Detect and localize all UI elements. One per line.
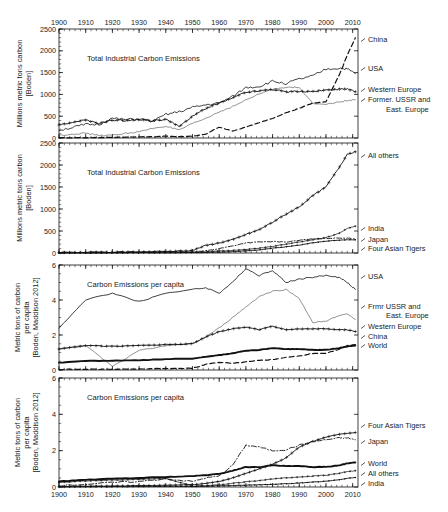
marker [79,252,81,254]
leader-tick [361,39,365,42]
marker [344,239,346,241]
marker [95,486,97,488]
x-tick-label-bottom: 1970 [238,490,254,499]
x-tick-label-bottom: 1980 [265,490,281,499]
leader-tick [361,336,365,339]
marker [355,239,357,241]
x-tick-label-top: 1910 [78,18,94,27]
marker [201,486,203,488]
marker [318,481,320,483]
y-tick-label: 4 [52,410,56,419]
marker [253,230,256,233]
marker [322,474,324,476]
marker [73,120,76,123]
marker [106,252,108,254]
marker [148,486,150,488]
x-tick-label-top: 1980 [265,18,281,27]
marker [206,482,209,485]
marker [221,479,224,482]
leader-tick [361,345,365,348]
marker [248,471,251,474]
marker [201,252,203,254]
y-tick-label: 2000 [40,46,56,55]
leader-tick [361,326,365,329]
marker [191,252,193,254]
marker [63,122,66,125]
x-tick-label-top: 1990 [291,18,307,27]
marker [328,240,330,242]
marker [227,239,230,242]
marker [153,343,156,346]
marker [211,481,214,484]
marker [74,486,76,488]
marker [253,469,256,472]
y-tick-label: 2500 [40,139,56,148]
marker [280,89,283,92]
y-axis-title-panel4: Metric tons of carbon [13,398,22,467]
marker [275,245,277,247]
series-label-east-europe: East. Europe [386,105,429,114]
marker [221,329,224,332]
marker [159,486,161,488]
marker [296,245,298,247]
x-tick-label-top: 2000 [318,18,334,27]
marker [138,486,140,488]
marker [264,246,266,248]
marker [254,247,256,249]
marker [317,327,320,330]
marker [122,252,124,254]
marker [184,342,187,345]
marker [100,344,103,347]
marker [322,89,325,92]
y-tick-label: 500 [44,227,56,236]
marker [306,90,309,93]
y-tick-label: 0 [52,249,56,258]
marker [153,252,155,254]
marker [328,480,330,482]
marker [307,482,309,484]
marker [349,477,351,479]
marker [180,486,182,488]
marker [212,252,214,254]
marker [227,328,230,331]
y-axis-subtitle-panel1: [Boden] [24,71,33,96]
marker [232,476,235,479]
marker [354,90,357,93]
marker [253,327,256,330]
marker [317,475,319,477]
series-label-four-asian-tigers: Four Asian Tigers [368,244,426,253]
y-axis-title-panel2: Millions metric tons carbon [15,154,24,242]
marker [296,241,298,243]
marker [254,249,256,251]
y-tick-label: 1500 [40,68,56,77]
marker [333,240,335,242]
marker [270,478,272,480]
leader-tick [361,68,365,71]
marker [228,485,230,487]
marker [286,246,288,248]
series-label-japan: Japan [368,235,388,244]
series-line-all-others [59,152,355,253]
marker [328,236,330,238]
marker [323,241,325,243]
marker [270,248,272,250]
marker [296,327,299,330]
y-tick-label: 4 [52,296,56,305]
marker [227,477,230,480]
marker [290,209,293,212]
marker [143,486,145,488]
marker [169,478,171,480]
marker [227,98,230,101]
series-label-east-europe: East. Europe [386,311,429,320]
leader-tick [361,155,365,158]
marker [101,486,103,488]
marker [333,473,335,475]
marker [333,434,336,437]
marker [69,252,71,254]
marker [302,244,304,246]
marker [57,123,60,126]
marker [158,343,161,346]
marker [138,252,140,254]
marker [249,250,251,252]
marker [153,486,155,488]
